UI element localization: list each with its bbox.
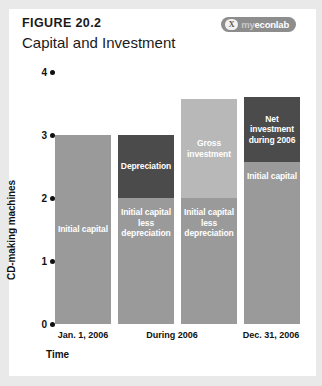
y-axis-tick-0: 0 (33, 319, 55, 330)
bar-segment-label: Depreciation (119, 161, 173, 172)
y-axis-tick-dot-icon (50, 70, 55, 75)
figure-container: FIGURE 20.2 Capital and Investment X mye… (0, 0, 322, 386)
y-axis-title: CD-making machines (6, 180, 22, 280)
figure-header: FIGURE 20.2 Capital and Investment X mye… (22, 16, 308, 60)
x-axis-labels: Jan. 1, 2006 During 2006 Dec. 31, 2006 (55, 330, 307, 344)
page-margin-bottom (0, 376, 322, 386)
bar-segment[interactable]: Initial capital (55, 135, 111, 324)
x-axis-label-1: During 2006 (135, 330, 209, 340)
bar-segment[interactable]: Gross investment (181, 99, 237, 198)
y-axis-tick-label: 2 (41, 193, 47, 204)
bar-segment-label: Net investment during 2006 (244, 114, 300, 146)
bar-column-2[interactable]: Initial capital less depreciationGross i… (181, 99, 237, 324)
y-axis-tick-3: 3 (33, 130, 55, 141)
x-axis-label-2: Dec. 31, 2006 (229, 330, 313, 340)
y-axis-tick-4: 4 (33, 67, 55, 78)
bar-column-0[interactable]: Initial capital (55, 135, 111, 324)
y-axis-tick-label: 1 (41, 256, 47, 267)
myeconlab-badge[interactable]: X myeconlab (221, 17, 296, 32)
bar-segment-label: Gross investment (181, 138, 237, 159)
bar-column-3[interactable]: Initial capitalNet investment during 200… (244, 97, 300, 324)
bar-segment-label: Initial capital (245, 171, 299, 182)
bar-segment-label: Initial capital less depreciation (118, 207, 174, 239)
bar-segment[interactable]: Depreciation (118, 135, 174, 198)
y-axis-tick-1: 1 (33, 256, 55, 267)
y-axis-tick-2: 2 (33, 193, 55, 204)
x-axis-title: Time (46, 349, 69, 360)
bar-segment[interactable]: Initial capital less depreciation (181, 198, 237, 324)
y-axis-tick-label: 4 (41, 67, 47, 78)
figure-title: Capital and Investment (22, 33, 308, 53)
bar-segment-label: Initial capital (56, 224, 110, 235)
page-margin-top (0, 0, 322, 9)
myeconlab-prefix: my (241, 19, 254, 30)
bar-segment-label: Initial capital less depreciation (181, 207, 237, 239)
plot-area: 01234 Initial capitalInitial capital les… (55, 72, 307, 324)
y-axis-tick-label: 0 (41, 319, 47, 330)
myeconlab-logo-icon: X (225, 19, 238, 30)
bar-segment[interactable]: Initial capital (244, 162, 300, 324)
myeconlab-wordmark: myeconlab (241, 19, 289, 30)
x-axis-label-0: Jan. 1, 2006 (46, 330, 120, 340)
y-axis-tick-label: 3 (41, 130, 47, 141)
bar-column-1[interactable]: Initial capital less depreciationDepreci… (118, 135, 174, 324)
page-margin-right (316, 0, 322, 386)
bar-segment[interactable]: Net investment during 2006 (244, 97, 300, 162)
bar-segment[interactable]: Initial capital less depreciation (118, 198, 174, 324)
myeconlab-name: econlab (255, 19, 290, 30)
